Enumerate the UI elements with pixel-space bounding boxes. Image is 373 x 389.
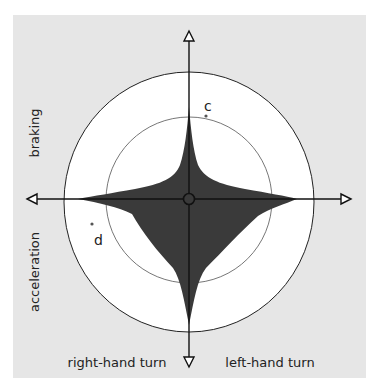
point-d-label: d [94, 232, 103, 248]
arrow-up-icon [184, 31, 194, 41]
arrow-right-icon [341, 194, 351, 204]
center-origin-marker [184, 194, 195, 205]
acceleration-label: acceleration [27, 232, 42, 312]
point-c-marker [204, 114, 207, 117]
left-hand-turn-label: left-hand turn [225, 355, 314, 370]
point-d-marker [90, 222, 93, 225]
point-c-label: c [204, 98, 212, 114]
braking-label: braking [27, 108, 42, 157]
arrow-down-icon [184, 357, 194, 367]
friction-circle-diagram: c d braking acceleration right-hand turn… [0, 0, 373, 389]
arrow-left-icon [27, 194, 37, 204]
right-hand-turn-label: right-hand turn [68, 355, 167, 370]
